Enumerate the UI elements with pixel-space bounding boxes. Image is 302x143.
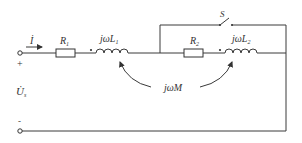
l1-polarity-dot [90,49,92,51]
l1-label: jωL1 [98,33,118,45]
resistor-r2 [184,49,203,57]
l2-label: jωL2 [230,33,250,45]
inductor-l1 [96,49,128,53]
current-label: İ [29,35,34,46]
switch-s[interactable] [220,18,229,25]
r1-label: R1 [59,35,69,47]
plus-sign: + [17,58,23,69]
bottom-terminal [18,129,22,133]
minus-sign: - [18,116,21,126]
switch-label: S [220,9,225,19]
voltage-label: U̇s [16,85,27,98]
top-terminal [18,51,22,55]
l2-polarity-dot [219,49,221,51]
mutual-label: jωM [162,82,183,93]
resistor-r1 [56,49,75,57]
circuit-diagram: İ R1 jωL1 S R2 jωL2 + U̇s - jωM [0,0,302,143]
mutual-arrow-right-icon [200,62,232,87]
inductor-l2 [225,49,257,53]
mutual-arrow-left-icon [120,62,151,87]
r2-label: R2 [189,35,199,47]
